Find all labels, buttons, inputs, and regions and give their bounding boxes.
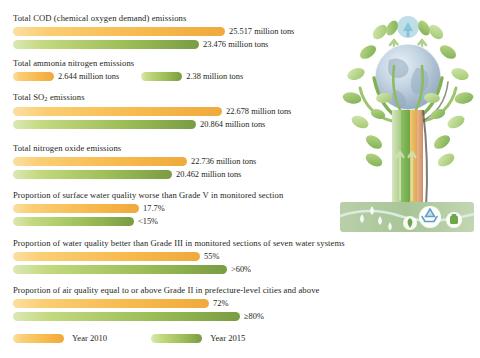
bin-icon — [446, 212, 462, 228]
eco-tree-globe-illustration — [334, 2, 480, 250]
legend-item-2015: Year 2015 — [151, 333, 245, 343]
chart-legend: Year 2010 Year 2015 — [13, 333, 245, 343]
bar-2010 — [13, 72, 54, 81]
bar-value-2010: 55% — [204, 252, 219, 261]
tree-trunk — [392, 110, 427, 208]
bar-row: 2.644 million tons 2.38 million tons — [13, 71, 338, 82]
bar-2015 — [13, 312, 240, 321]
bar-value-2015: >60% — [231, 265, 251, 274]
bar-value-2015: 23.476 million tons — [203, 40, 268, 49]
bar-value-2010: 72% — [213, 299, 228, 308]
leaf-badge-icon — [403, 216, 417, 230]
bar-2015 — [13, 265, 227, 274]
group-label-so2: Total SO2 emissions — [13, 92, 338, 104]
bar-group-ammonia-nitrogen: Total ammonia nitrogen emissions 2.644 m… — [13, 58, 338, 82]
bar-2010 — [13, 27, 225, 36]
bar-2010 — [13, 107, 222, 116]
bar-group-surface-water-grade-v: Proportion of surface water quality wors… — [13, 190, 338, 227]
group-label-ammonia-nitrogen: Total ammonia nitrogen emissions — [13, 58, 338, 69]
bar-row: ≥80% — [13, 311, 338, 322]
bar-value-2010: 22.678 million tons — [226, 107, 291, 116]
bar-2010 — [13, 299, 209, 308]
bar-value-2010: 17.7% — [143, 204, 165, 213]
bar-value-2015: 20.462 million tons — [176, 170, 241, 179]
bar-group-cod: Total COD (chemical oxygen demand) emiss… — [13, 13, 338, 50]
legend-label-2015: Year 2015 — [210, 333, 245, 343]
legend-label-2010: Year 2010 — [72, 333, 107, 343]
bars-area: Total COD (chemical oxygen demand) emiss… — [0, 0, 340, 358]
legend-swatch-2010 — [13, 334, 64, 343]
bar-2015 — [13, 120, 196, 129]
bar-row: 22.736 million tons — [13, 156, 338, 167]
bar-row: 17.7% — [13, 203, 338, 214]
bar-group-water-quality-grade-iii: Proportion of water quality better than … — [13, 238, 338, 275]
bar-2015 — [13, 170, 172, 179]
eco-indicators-infographic: Total COD (chemical oxygen demand) emiss… — [0, 0, 480, 358]
bar-group-air-quality-grade-ii: Proportion of air quality equal to or ab… — [13, 285, 338, 322]
bar-value-2015: 20.864 million tons — [200, 120, 265, 129]
bar-value-2010: 22.736 million tons — [191, 157, 256, 166]
bar-value-2015: 2.38 million tons — [186, 72, 243, 81]
bar-row: >60% — [13, 264, 338, 275]
group-label-so2-pre: Total SO — [13, 92, 44, 102]
group-label-cod: Total COD (chemical oxygen demand) emiss… — [13, 13, 338, 24]
bar-value-2010: 2.644 million tons — [58, 72, 119, 81]
bar-row: 72% — [13, 298, 338, 309]
bar-2015 — [13, 217, 134, 226]
bar-2015 — [141, 72, 182, 81]
group-label-surface-water-grade-v: Proportion of surface water quality wors… — [13, 190, 338, 201]
bar-row: 20.462 million tons — [13, 169, 338, 180]
bar-2010 — [13, 204, 139, 213]
bar-row: <15% — [13, 216, 338, 227]
bar-value-2010: 25.517 million tons — [229, 27, 294, 36]
bar-value-2015: ≥80% — [244, 312, 264, 321]
group-label-water-quality-grade-iii: Proportion of water quality better than … — [13, 238, 338, 249]
bar-2010 — [13, 252, 200, 261]
group-label-nitrogen-oxide: Total nitrogen oxide emissions — [13, 143, 338, 154]
bar-group-nitrogen-oxide: Total nitrogen oxide emissions 22.736 mi… — [13, 143, 338, 180]
bar-2010 — [13, 157, 187, 166]
legend-item-2010: Year 2010 — [13, 333, 107, 343]
recycle-icon — [419, 206, 441, 228]
bar-row: 22.678 million tons — [13, 106, 338, 117]
bar-row: 20.864 million tons — [13, 119, 338, 130]
bar-row: 23.476 million tons — [13, 39, 338, 50]
legend-swatch-2015 — [151, 334, 202, 343]
bar-2015 — [13, 40, 199, 49]
bar-row: 55% — [13, 251, 338, 262]
sapling-icon — [397, 16, 419, 38]
group-label-so2-post: emissions — [48, 92, 85, 102]
bar-value-2015: <15% — [138, 217, 158, 226]
bar-group-so2: Total SO2 emissions 22.678 million tons … — [13, 92, 338, 130]
bar-row: 25.517 million tons — [13, 26, 338, 37]
group-label-air-quality-grade-ii: Proportion of air quality equal to or ab… — [13, 285, 338, 296]
